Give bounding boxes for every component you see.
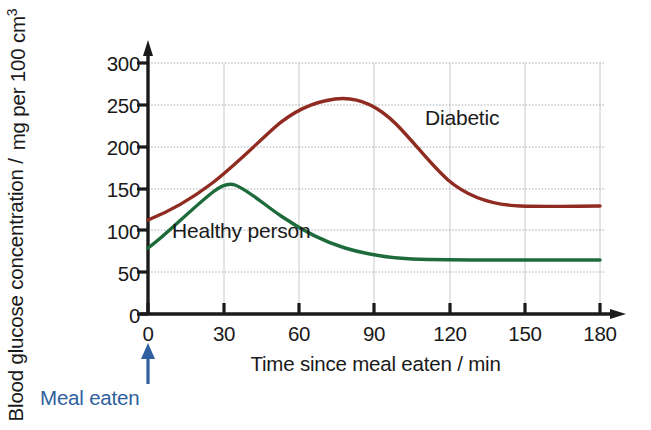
series-label-healthy-person: Healthy person [172,219,310,243]
glucose-response-chart: Blood glucose concentration / mg per 100… [0,0,651,430]
x-axis-arrowhead [610,309,626,319]
y-axis-arrowhead [143,40,153,56]
x-axis [140,303,626,319]
plot-canvas [0,0,651,430]
y-axis [137,40,153,314]
series-label-diabetic: Diabetic [425,106,499,130]
meal-eaten-label: Meal eaten [40,386,139,410]
